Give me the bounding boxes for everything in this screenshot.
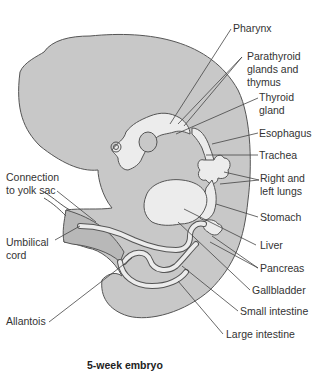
label-large-intestine: Large intestine bbox=[226, 328, 295, 341]
label-yolk-sac: Connection to yolk sac bbox=[6, 171, 59, 197]
label-allantois: Allantois bbox=[6, 315, 46, 328]
figure-caption: 5-week embryo bbox=[87, 359, 163, 371]
label-stomach: Stomach bbox=[260, 211, 301, 224]
label-lungs: Right and left lungs bbox=[260, 172, 305, 198]
label-umbilical-cord: Umbilical cord bbox=[6, 236, 49, 262]
label-trachea: Trachea bbox=[259, 149, 297, 162]
liver-shape bbox=[144, 180, 207, 226]
label-gallbladder: Gallbladder bbox=[252, 284, 306, 297]
label-pharynx: Pharynx bbox=[233, 22, 272, 35]
label-esophagus: Esophagus bbox=[259, 127, 312, 140]
label-pancreas: Pancreas bbox=[260, 262, 304, 275]
label-thyroid: Thyroid gland bbox=[259, 91, 294, 117]
label-parathyroid: Parathyroid glands and thymus bbox=[247, 50, 301, 89]
label-liver: Liver bbox=[260, 239, 283, 252]
label-small-intestine: Small intestine bbox=[240, 305, 308, 318]
